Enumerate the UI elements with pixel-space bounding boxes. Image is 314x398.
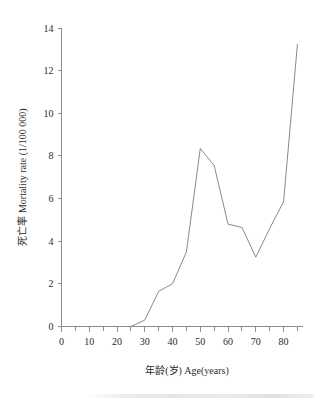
y-tick-label: 8: [49, 150, 54, 161]
x-axis-title: 年龄(岁) Age(years): [145, 364, 229, 377]
y-tick-label: 14: [44, 23, 54, 34]
x-tick-label: 70: [251, 336, 261, 347]
y-axis-title: 死亡率 Mortality rate (1/100 000): [16, 108, 29, 245]
chart-figure: 02468101214 01020304050607080 年龄(岁) Age(…: [0, 0, 314, 398]
x-axis-tick-labels: 01020304050607080: [59, 336, 289, 347]
x-tick-label: 20: [112, 336, 122, 347]
x-tick-label: 60: [223, 336, 233, 347]
x-tick-label: 0: [59, 336, 64, 347]
chart-background: [0, 0, 314, 398]
x-tick-label: 10: [84, 336, 94, 347]
page-edge-artifact: [0, 394, 314, 398]
y-tick-label: 0: [49, 321, 54, 332]
x-tick-label: 50: [195, 336, 205, 347]
mortality-by-age-line-chart: 02468101214 01020304050607080 年龄(岁) Age(…: [0, 0, 314, 398]
x-tick-label: 30: [140, 336, 150, 347]
x-tick-label: 80: [279, 336, 289, 347]
y-tick-label: 6: [49, 193, 54, 204]
x-tick-label: 40: [168, 336, 178, 347]
y-tick-label: 4: [49, 236, 54, 247]
y-tick-label: 2: [49, 278, 54, 289]
y-tick-label: 12: [44, 65, 54, 76]
y-tick-label: 10: [44, 108, 54, 119]
